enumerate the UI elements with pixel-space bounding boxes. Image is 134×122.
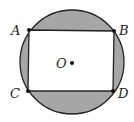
point-a [27, 28, 31, 32]
label-b: B [118, 23, 129, 38]
point-d [111, 89, 115, 93]
center-point-o [70, 61, 74, 65]
point-c [26, 89, 30, 93]
label-a: A [10, 23, 20, 38]
rectangle-abdc [28, 30, 114, 91]
point-b [112, 29, 116, 33]
geometry-diagram: A B C D O [0, 0, 134, 122]
label-d: D [117, 86, 129, 101]
label-o: O [56, 56, 67, 71]
label-c: C [10, 86, 20, 101]
